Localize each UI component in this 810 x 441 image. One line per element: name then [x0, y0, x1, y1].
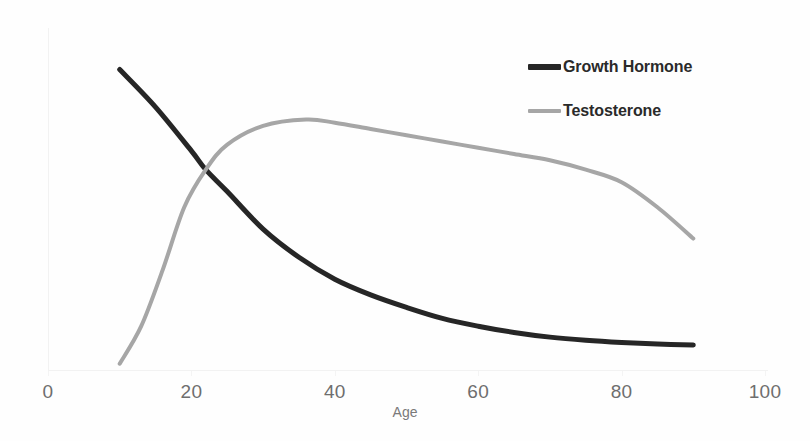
x-tick-label-20: 20: [181, 381, 203, 403]
legend-label-testosterone: Testosterone: [563, 102, 661, 120]
x-axis-title: Age: [393, 404, 418, 420]
legend-entry-testosterone[interactable]: Testosterone: [528, 96, 798, 126]
x-tick-label-0: 0: [43, 381, 54, 403]
x-tick-label-60: 60: [467, 381, 489, 403]
legend-swatch-testosterone: [528, 109, 561, 113]
series-line-testosterone: [120, 120, 694, 364]
x-tick-label-100: 100: [749, 381, 782, 403]
hormone-age-line-chart: 020406080100 Age Growth Hormone Testoste…: [0, 0, 810, 441]
x-tick-label-80: 80: [611, 381, 633, 403]
legend-entry-growth-hormone[interactable]: Growth Hormone: [528, 52, 798, 82]
x-tick-label-40: 40: [324, 381, 346, 403]
legend-swatch-growth-hormone: [528, 64, 561, 70]
chart-legend: Growth Hormone Testosterone: [528, 52, 798, 140]
legend-label-growth-hormone: Growth Hormone: [563, 58, 692, 76]
x-axis-ticks: [49, 371, 766, 376]
